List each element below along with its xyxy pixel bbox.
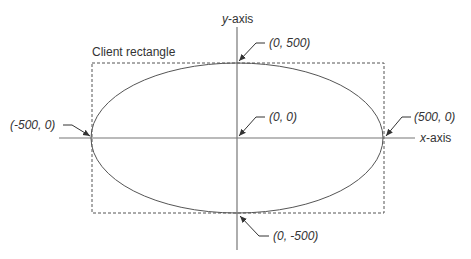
x-axis-label: x-axis bbox=[420, 131, 451, 145]
y-axis-label: y-axis bbox=[222, 12, 253, 26]
y-axis-suffix: -axis bbox=[228, 12, 253, 26]
leader-origin bbox=[239, 117, 265, 136]
leader-bottom bbox=[240, 216, 269, 236]
leader-top bbox=[239, 43, 265, 61]
diagram-canvas bbox=[0, 0, 471, 259]
point-label-top: (0, 500) bbox=[269, 36, 310, 50]
leader-left bbox=[63, 125, 90, 136]
client-rectangle-label: Client rectangle bbox=[92, 45, 175, 59]
leader-right bbox=[386, 117, 411, 136]
point-label-left: (-500, 0) bbox=[10, 118, 55, 132]
point-label-right: (500, 0) bbox=[414, 110, 455, 124]
x-axis-suffix: -axis bbox=[426, 131, 451, 145]
point-label-bottom: (0, -500) bbox=[273, 229, 318, 243]
point-label-origin: (0, 0) bbox=[269, 110, 297, 124]
